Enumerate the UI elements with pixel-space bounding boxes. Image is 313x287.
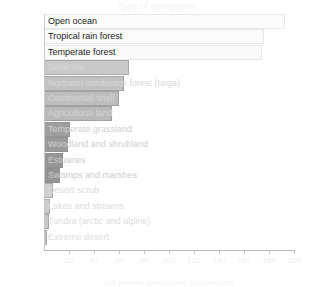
bar-row: Lakes and streams	[44, 199, 294, 214]
bar-label: Extreme desert	[48, 231, 109, 244]
y-axis-line	[44, 14, 45, 251]
bar-row: Savanna	[44, 60, 294, 75]
x-tick	[94, 250, 95, 254]
bar-label: Desert scrub	[48, 184, 99, 197]
bar-row: Temperate grassland	[44, 122, 294, 137]
bar-row: Woodland and shrubland	[44, 137, 294, 152]
x-tick-label: 20	[57, 256, 81, 265]
x-tick	[69, 250, 70, 254]
bar-label: Tundra (arctic and alpine)	[48, 215, 150, 228]
bar-label: Temperate grassland	[48, 123, 132, 136]
x-tick-label: 180	[257, 256, 281, 265]
bar-row: Tropical rain forest	[44, 29, 294, 44]
x-tick	[194, 250, 195, 254]
x-tick	[219, 250, 220, 254]
bar-label: Open ocean	[48, 15, 97, 28]
x-tick	[144, 250, 145, 254]
x-axis-caption: Net primary productivity (kilocalories)	[44, 278, 294, 287]
bar-label: Temperate forest	[48, 46, 116, 59]
bar-label: Tropical rain forest	[48, 30, 122, 43]
chart-title: Type of ecosystem	[0, 1, 313, 11]
bar-row: Continental shelf	[44, 91, 294, 106]
x-tick-label: 200	[282, 256, 306, 265]
x-tick-label: 120	[182, 256, 206, 265]
bar-row: Northern coniferous forest (taiga)	[44, 76, 294, 91]
x-tick-label: 140	[207, 256, 231, 265]
bar-row: Temperate forest	[44, 45, 294, 60]
bar-row: Agricultural land	[44, 106, 294, 121]
bar-label: Swamps and marshes	[48, 169, 137, 182]
bar-label: Agricultural land	[48, 107, 113, 120]
x-tick	[294, 250, 295, 254]
x-tick-label: 80	[132, 256, 156, 265]
bar-label: Savanna	[48, 61, 84, 74]
bar-row: Estuaries	[44, 153, 294, 168]
plot-area: Open oceanTropical rain forestTemperate …	[44, 14, 294, 247]
x-tick	[269, 250, 270, 254]
bar-row: Swamps and marshes	[44, 168, 294, 183]
bar-row: Desert scrub	[44, 183, 294, 198]
bar-row: Open ocean	[44, 14, 294, 29]
x-tick-label: 160	[232, 256, 256, 265]
bar-label: Continental shelf	[48, 92, 115, 105]
x-tick-label: 40	[82, 256, 106, 265]
bar-chart: Type of ecosystem Open oceanTropical rai…	[0, 0, 313, 287]
x-tick-label: 60	[107, 256, 131, 265]
x-tick-label: 100	[157, 256, 181, 265]
bar-row: Extreme desert	[44, 230, 294, 245]
x-tick	[119, 250, 120, 254]
bar-label: Estuaries	[48, 154, 86, 167]
x-tick	[169, 250, 170, 254]
bar-label: Woodland and shrubland	[48, 138, 148, 151]
x-tick	[244, 250, 245, 254]
bar-label: Northern coniferous forest (taiga)	[48, 77, 180, 90]
bar-label: Lakes and streams	[48, 200, 124, 213]
bar-row: Tundra (arctic and alpine)	[44, 214, 294, 229]
